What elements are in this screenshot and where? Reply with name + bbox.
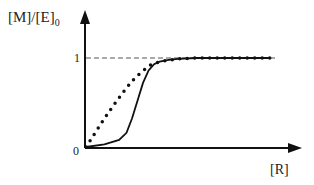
- chart: [M]/[E]0 1 0 [R]: [0, 0, 314, 185]
- y-axis-arrow-icon: [80, 10, 90, 24]
- x-axis-label: [R]: [270, 162, 289, 177]
- y-tick-1: 1: [74, 51, 80, 65]
- x-axis-arrow-icon: [288, 143, 302, 153]
- y-axis-label: [M]/[E]0: [8, 9, 60, 28]
- dotted-curve: [86, 58, 270, 147]
- y-tick-0: 0: [73, 144, 79, 158]
